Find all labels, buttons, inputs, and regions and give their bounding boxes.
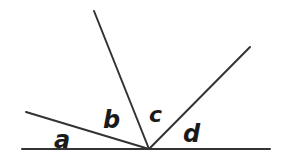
angle-label-c: c [149, 104, 162, 126]
angle-figure: a b c d [0, 0, 287, 167]
angle-label-b: b [103, 108, 120, 132]
angle-label-a: a [54, 128, 70, 152]
angle-label-d: d [183, 122, 200, 146]
angle-diagram-svg [0, 0, 287, 167]
ray-left-upper [26, 112, 149, 149]
